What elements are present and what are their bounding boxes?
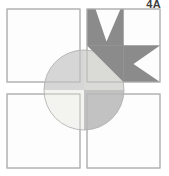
figure-4a: 4A bbox=[0, 0, 169, 176]
quilt-block-diagram: 4A bbox=[0, 0, 169, 176]
figure-label: 4A bbox=[146, 0, 161, 10]
